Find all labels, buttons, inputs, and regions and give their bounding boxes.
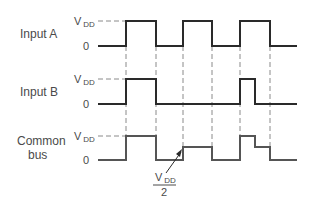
input-a-label: Input A xyxy=(20,27,57,41)
vdd-half-numerator: VDD xyxy=(155,171,176,185)
common-bus-zero-label: 0 xyxy=(83,154,89,166)
input-b-zero-label: 0 xyxy=(83,98,89,110)
vdd-half-annotation: VDD 2 xyxy=(153,149,182,198)
input-a-signal: Input A VDD 0 xyxy=(20,15,297,52)
input-a-vdd-label: VDD xyxy=(74,15,95,29)
common-bus-label-line1: Common xyxy=(17,134,66,148)
input-a-zero-label: 0 xyxy=(83,40,89,52)
input-b-label: Input B xyxy=(20,85,58,99)
common-bus-signal: Common bus VDD 0 xyxy=(17,130,297,166)
vdd-half-denominator: 2 xyxy=(161,186,167,198)
input-b-signal: Input B VDD 0 xyxy=(20,73,297,110)
common-bus-label-line2: bus xyxy=(28,148,47,162)
timing-guides xyxy=(126,22,270,160)
common-bus-vdd-label: VDD xyxy=(74,130,95,144)
input-b-vdd-label: VDD xyxy=(74,73,95,87)
arrow-head-icon xyxy=(176,149,182,157)
timing-diagram: Input A VDD 0 Input B VDD 0 Common bus V… xyxy=(0,0,309,201)
